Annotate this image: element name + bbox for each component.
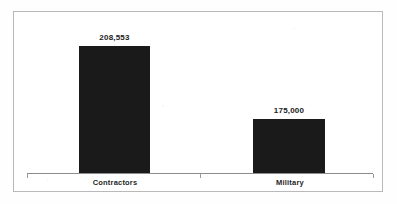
value-label-military: 175,000	[253, 106, 325, 115]
page-background: 208,553 175,000 Contractors Military	[0, 0, 397, 204]
axis-tick-middle	[200, 174, 201, 178]
value-label-contractors: 208,553	[79, 33, 150, 42]
plot-area: 208,553 175,000 Contractors Military	[14, 12, 382, 191]
axis-tick-start	[27, 174, 28, 178]
axis-tick-end	[373, 174, 374, 178]
category-label-contractors: Contractors	[69, 178, 161, 187]
bar-military[interactable]	[253, 119, 325, 173]
category-label-military: Military	[244, 178, 336, 187]
chart-frame: 208,553 175,000 Contractors Military	[13, 11, 383, 192]
bar-contractors[interactable]	[79, 46, 150, 173]
